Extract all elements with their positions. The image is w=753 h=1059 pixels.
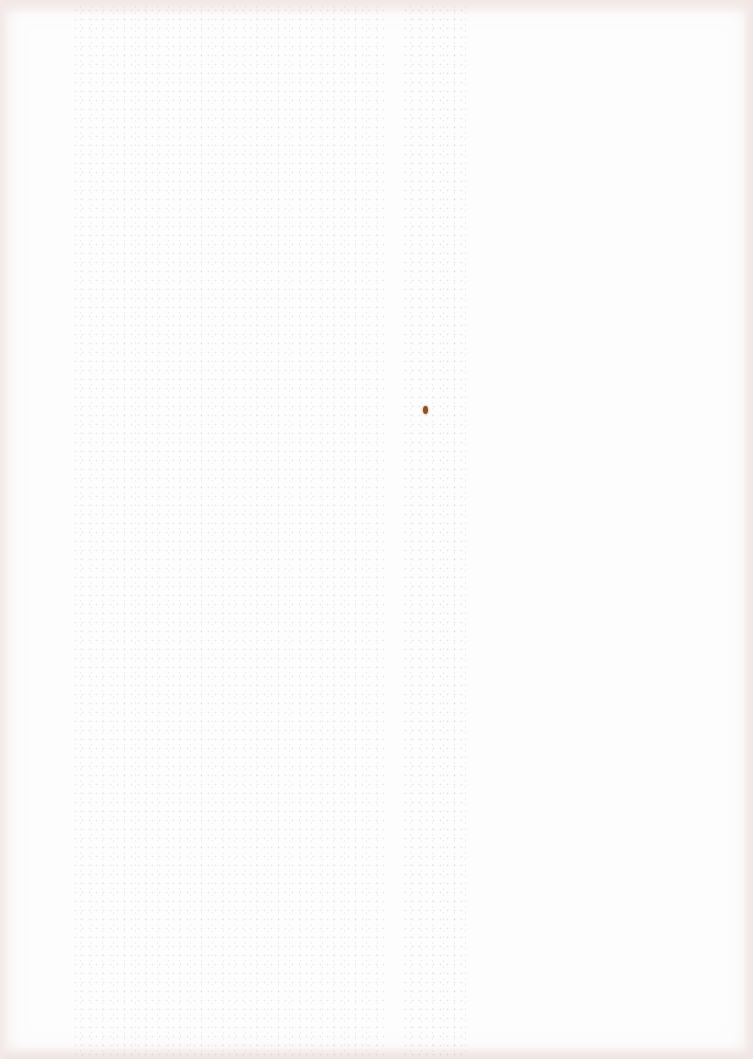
scanned-page <box>0 0 753 1059</box>
page-edge-left <box>0 0 8 1059</box>
bleed-through-right-column <box>402 6 468 1056</box>
bleed-through-left-column <box>72 6 384 1056</box>
page-edge-right <box>743 0 753 1059</box>
ink-spot <box>423 406 428 414</box>
